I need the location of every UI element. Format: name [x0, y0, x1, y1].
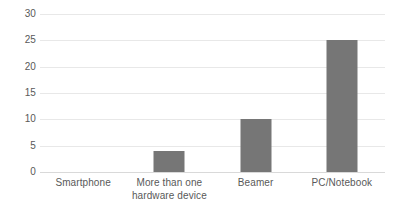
- x-label-more-than-one-hardware-device-line-1: More than one: [126, 176, 212, 189]
- y-tick-label-30: 30: [6, 9, 36, 19]
- bar-pc-notebook[interactable]: [326, 40, 357, 172]
- x-label-pc-notebook: PC/Notebook: [299, 176, 385, 189]
- x-label-smartphone-line-1: Smartphone: [40, 176, 126, 189]
- x-label-more-than-one-hardware-device: More than one hardware device: [126, 176, 212, 202]
- bar-slot-beamer: [213, 14, 299, 172]
- bar-slot-more-than-one-hardware-device: [126, 14, 212, 172]
- x-label-beamer-line-1: Beamer: [213, 176, 299, 189]
- x-axis: Smartphone More than one hardware device…: [40, 176, 385, 218]
- axis-baseline: [40, 172, 385, 173]
- y-tick-label-15: 15: [6, 88, 36, 98]
- bar-more-than-one-hardware-device[interactable]: [154, 151, 185, 172]
- y-tick-label-0: 0: [6, 167, 36, 177]
- x-label-beamer: Beamer: [213, 176, 299, 189]
- y-tick-label-10: 10: [6, 114, 36, 124]
- bar-slot-smartphone: [40, 14, 126, 172]
- x-label-smartphone: Smartphone: [40, 176, 126, 189]
- y-tick-label-25: 25: [6, 35, 36, 45]
- bar-beamer[interactable]: [240, 119, 271, 172]
- y-tick-label-5: 5: [6, 141, 36, 151]
- bar-slot-pc-notebook: [299, 14, 385, 172]
- bar-chart: 30 25 20 15 10 5 0 Smartphone More than …: [0, 0, 403, 220]
- y-tick-label-20: 20: [6, 62, 36, 72]
- bars-layer: [40, 14, 385, 172]
- x-label-pc-notebook-line-1: PC/Notebook: [299, 176, 385, 189]
- x-label-more-than-one-hardware-device-line-2: hardware device: [126, 189, 212, 202]
